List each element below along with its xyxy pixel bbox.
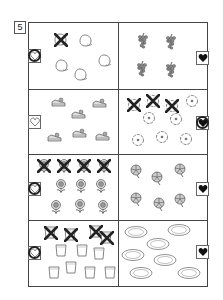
heart-filled-icon[interactable] <box>196 51 209 65</box>
comparison-grid <box>28 22 208 287</box>
cross-mark-icon <box>165 99 179 113</box>
sunflower-icon <box>96 200 110 216</box>
cell-grapes <box>119 23 208 90</box>
plate-icon <box>146 238 170 250</box>
cross-mark-icon <box>97 159 111 173</box>
peach-icon <box>79 34 93 48</box>
cross-mark-icon <box>37 159 51 173</box>
cross-mark-icon <box>44 226 58 240</box>
cell-peaches <box>29 23 119 90</box>
glass-icon <box>55 244 67 258</box>
cell-pinwheel-flowers <box>119 155 208 221</box>
plate-icon <box>129 267 153 279</box>
peach-icon <box>74 68 88 82</box>
glass-icon <box>48 266 60 280</box>
heart-outline-icon[interactable] <box>28 115 41 129</box>
heart-outline-icon[interactable] <box>28 182 41 196</box>
heart-outline-icon[interactable] <box>28 246 41 260</box>
cell-glasses <box>29 221 119 286</box>
glass-icon <box>104 266 116 280</box>
cake-icon <box>92 97 107 109</box>
glass-icon <box>65 261 77 275</box>
pinwheel-flower-icon <box>152 197 166 212</box>
pinwheel-flower-icon <box>173 193 187 208</box>
plate-icon <box>124 226 148 238</box>
cell-cakes <box>29 90 119 155</box>
pinwheel-flower-icon <box>129 192 143 207</box>
plate-icon <box>177 267 201 279</box>
heart-filled-icon[interactable] <box>196 182 209 196</box>
cake-icon <box>71 108 86 120</box>
cross-mark-icon <box>54 33 68 47</box>
flower-icon <box>131 133 145 147</box>
cell-sunflowers <box>29 155 119 221</box>
pinwheel-flower-icon <box>129 164 143 179</box>
pinwheel-flower-icon <box>150 171 164 186</box>
heart-filled-icon[interactable] <box>196 245 209 259</box>
cake-icon <box>95 130 110 142</box>
grapes-icon <box>137 33 149 49</box>
flower-icon <box>185 94 199 108</box>
cell-plates <box>119 221 208 286</box>
plate-icon <box>153 254 177 266</box>
sunflower-icon <box>49 200 63 216</box>
flower-icon <box>155 130 169 144</box>
exercise-number-badge: 5 <box>14 21 26 34</box>
cell-flowers <box>119 90 208 155</box>
glass-icon <box>93 247 105 261</box>
sunflower-icon <box>54 179 68 195</box>
plate-icon <box>167 224 191 236</box>
sunflower-icon <box>73 199 87 215</box>
cross-mark-icon <box>77 159 91 173</box>
flower-icon <box>142 111 156 125</box>
cross-mark-icon <box>64 228 78 242</box>
peach-icon <box>55 59 69 73</box>
glass-icon <box>84 266 96 280</box>
cross-mark-icon <box>127 98 141 112</box>
flower-icon <box>179 132 193 146</box>
grapes-icon <box>165 34 177 50</box>
sunflower-icon <box>74 179 88 195</box>
flower-icon <box>169 112 183 126</box>
grapes-icon <box>165 62 177 78</box>
sunflower-icon <box>94 179 108 195</box>
cake-icon <box>51 96 66 108</box>
cross-mark-icon <box>57 159 71 173</box>
glass-icon <box>76 244 88 258</box>
heart-outline-icon[interactable] <box>28 49 41 63</box>
cross-mark-icon <box>146 94 160 108</box>
peach-icon <box>98 54 112 68</box>
cake-icon <box>47 131 62 143</box>
pinwheel-flower-icon <box>173 163 187 178</box>
plate-icon <box>121 249 145 261</box>
grapes-icon <box>136 61 148 77</box>
heart-filled-icon[interactable] <box>196 116 209 130</box>
cake-icon <box>72 127 87 139</box>
cross-mark-icon <box>100 231 114 245</box>
